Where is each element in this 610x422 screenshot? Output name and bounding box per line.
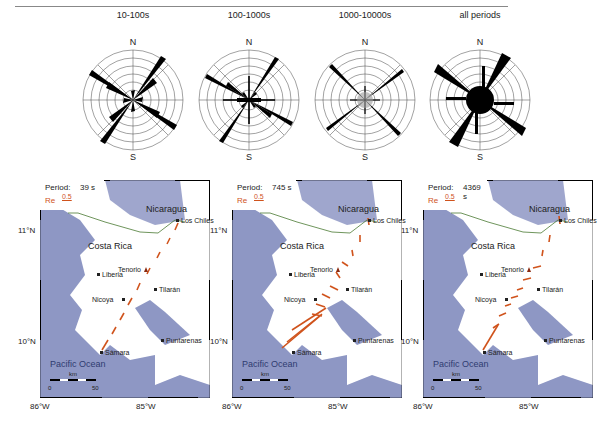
label-liberia: Liberia xyxy=(294,271,315,278)
label-costa-rica: Costa Rica xyxy=(471,241,515,251)
label-los-chiles: Los Chiles xyxy=(373,217,406,224)
label-puntarenas: Puntarenas xyxy=(166,337,202,344)
re-label: Re xyxy=(428,196,438,205)
rose-plot xyxy=(197,48,301,152)
north-label: N xyxy=(189,37,309,47)
rose-diagram-100-1000s: 100-1000s N S xyxy=(189,10,309,170)
map-legend: Period: 4369 s Re 0.5 xyxy=(423,180,487,210)
label-los-chiles: Los Chiles xyxy=(564,217,597,224)
south-label: S xyxy=(420,152,540,162)
scalebar-zero: 0 xyxy=(431,385,434,391)
re-label: Re xyxy=(45,196,55,205)
rose-diagram-10-100s: 10-100s N S xyxy=(73,10,193,170)
arrow-scale-label: 0.5 xyxy=(254,193,264,200)
scalebar-fifty: 50 xyxy=(92,385,99,391)
rose-diagram-1000-10000s: 1000-10000s N S xyxy=(305,10,425,170)
scalebar-unit: km xyxy=(261,371,269,377)
label-los-chiles: Los Chiles xyxy=(181,217,214,224)
period-value: 39 s xyxy=(80,183,95,192)
map-panel-745s: Period: 745 s Re 0.5 Nicaragua Costa Ric… xyxy=(232,180,402,398)
label-pacific-ocean: Pacific Ocean xyxy=(242,359,298,369)
label-nicoya: Nicoya xyxy=(92,296,113,303)
lat-10n: 10°N xyxy=(18,337,36,346)
north-label: N xyxy=(73,37,193,47)
label-nicaragua: Nicaragua xyxy=(338,204,379,214)
rose-diagram-all-periods: all periods N S xyxy=(420,10,540,170)
period-label: Period: xyxy=(45,183,70,192)
scalebar-zero: 0 xyxy=(48,385,51,391)
north-label: N xyxy=(305,37,425,47)
label-nicoya: Nicoya xyxy=(284,296,305,303)
label-samara: Sámara xyxy=(105,349,130,356)
lon-85w: 85°W xyxy=(136,402,156,411)
label-nicaragua: Nicaragua xyxy=(529,204,570,214)
lon-86w: 86°W xyxy=(413,402,433,411)
lon-86w: 86°W xyxy=(222,402,242,411)
period-value: 745 s xyxy=(272,183,292,192)
re-label: Re xyxy=(237,196,247,205)
arrow-scale-label: 0.5 xyxy=(62,193,72,200)
lat-10n: 10°N xyxy=(210,337,228,346)
map-panel-39s: Period: 39 s Re 0.5 Nicaragua Costa Rica… xyxy=(40,180,210,398)
period-label: Period: xyxy=(237,183,262,192)
rose-plot xyxy=(81,48,185,152)
lat-10n: 10°N xyxy=(401,337,419,346)
lon-85w: 85°W xyxy=(519,402,539,411)
rose-plot xyxy=(313,48,417,152)
label-tilaran: Tilarán xyxy=(351,286,372,293)
scalebar-fifty: 50 xyxy=(284,385,291,391)
map-legend: Period: 39 s Re 0.5 xyxy=(40,180,104,210)
lon-85w: 85°W xyxy=(328,402,348,411)
period-value: 4369 s xyxy=(463,183,487,201)
map-legend: Period: 745 s Re 0.5 xyxy=(232,180,296,210)
lat-11n: 11°N xyxy=(401,226,418,235)
lat-11n: 11°N xyxy=(210,226,227,235)
scalebar-unit: km xyxy=(452,371,460,377)
label-liberia: Liberia xyxy=(485,271,506,278)
period-label: Period: xyxy=(428,183,453,192)
rose-title: 1000-10000s xyxy=(305,10,425,20)
rose-title: all periods xyxy=(420,10,540,20)
label-pacific-ocean: Pacific Ocean xyxy=(433,359,489,369)
label-samara: Sámara xyxy=(297,349,322,356)
south-label: S xyxy=(73,152,193,162)
label-tilaran: Tilarán xyxy=(542,286,563,293)
label-costa-rica: Costa Rica xyxy=(88,241,132,251)
top-rule xyxy=(15,6,508,7)
rose-title: 10-100s xyxy=(73,10,193,20)
label-tilaran: Tilarán xyxy=(159,286,180,293)
rose-plot xyxy=(428,48,532,152)
arrow-scale-label: 0.5 xyxy=(445,193,455,200)
scalebar-fifty: 50 xyxy=(475,385,482,391)
label-samara: Sámara xyxy=(488,349,513,356)
scalebar-unit: km xyxy=(69,371,77,377)
lon-86w: 86°W xyxy=(30,402,50,411)
label-nicoya: Nicoya xyxy=(475,296,496,303)
south-label: S xyxy=(305,152,425,162)
label-costa-rica: Costa Rica xyxy=(280,241,324,251)
south-label: S xyxy=(189,152,309,162)
label-puntarenas: Puntarenas xyxy=(549,337,585,344)
label-pacific-ocean: Pacific Ocean xyxy=(50,359,106,369)
label-nicaragua: Nicaragua xyxy=(146,204,187,214)
label-liberia: Liberia xyxy=(102,271,123,278)
map-panel-4369s: Period: 4369 s Re 0.5 Nicaragua Costa Ri… xyxy=(423,180,593,398)
rose-title: 100-1000s xyxy=(189,10,309,20)
north-label: N xyxy=(420,37,540,47)
scalebar-zero: 0 xyxy=(240,385,243,391)
lat-11n: 11°N xyxy=(18,226,35,235)
label-puntarenas: Puntarenas xyxy=(358,337,394,344)
